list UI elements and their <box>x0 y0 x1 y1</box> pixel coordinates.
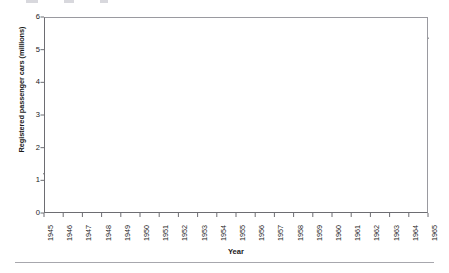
y-tick-label: 6 <box>26 13 40 21</box>
y-tick-label: 3 <box>26 111 40 119</box>
y-tick-label: 2 <box>26 144 40 152</box>
x-tick-label: 1960 <box>335 225 343 241</box>
x-tick-label: 1965 <box>431 225 439 241</box>
y-tick-label: 1 <box>26 176 40 184</box>
x-tick-label: 1946 <box>66 225 74 241</box>
x-tick-label: 1957 <box>277 225 285 241</box>
y-tick-label: 4 <box>26 78 40 86</box>
x-tick-label: 1964 <box>412 225 420 241</box>
x-axis-tick-labels: 1945194619471948194919501951195219531954… <box>44 215 428 245</box>
y-tick-label: 5 <box>26 46 40 54</box>
chart-figure: 6543210 Registered passenger cars (milli… <box>0 0 449 273</box>
x-tick-label: 1945 <box>47 225 55 241</box>
x-tick-label: 1953 <box>201 225 209 241</box>
x-tick-label: 1947 <box>85 225 93 241</box>
footer-divider <box>15 262 434 263</box>
x-tick-label: 1951 <box>162 225 170 241</box>
x-tick-label: 1962 <box>373 225 381 241</box>
x-tick-label: 1961 <box>354 225 362 241</box>
plot-area-frame <box>44 17 428 213</box>
x-tick-label: 1955 <box>239 225 247 241</box>
x-tick-label: 1959 <box>316 225 324 241</box>
x-tick-label: 1950 <box>143 225 151 241</box>
x-tick-label: 1963 <box>393 225 401 241</box>
y-axis-tick-labels: 6543210 <box>24 17 40 213</box>
x-tick-label: 1956 <box>258 225 266 241</box>
x-tick-label: 1949 <box>124 225 132 241</box>
y-axis-title: Registered passenger cars (millions) <box>17 0 26 188</box>
x-tick-label: 1958 <box>297 225 305 241</box>
x-tick-label: 1954 <box>220 225 228 241</box>
x-axis-title: Year <box>44 247 428 256</box>
x-tick-label: 1952 <box>181 225 189 241</box>
x-tick-label: 1948 <box>105 225 113 241</box>
y-tick-label: 0 <box>26 209 40 217</box>
